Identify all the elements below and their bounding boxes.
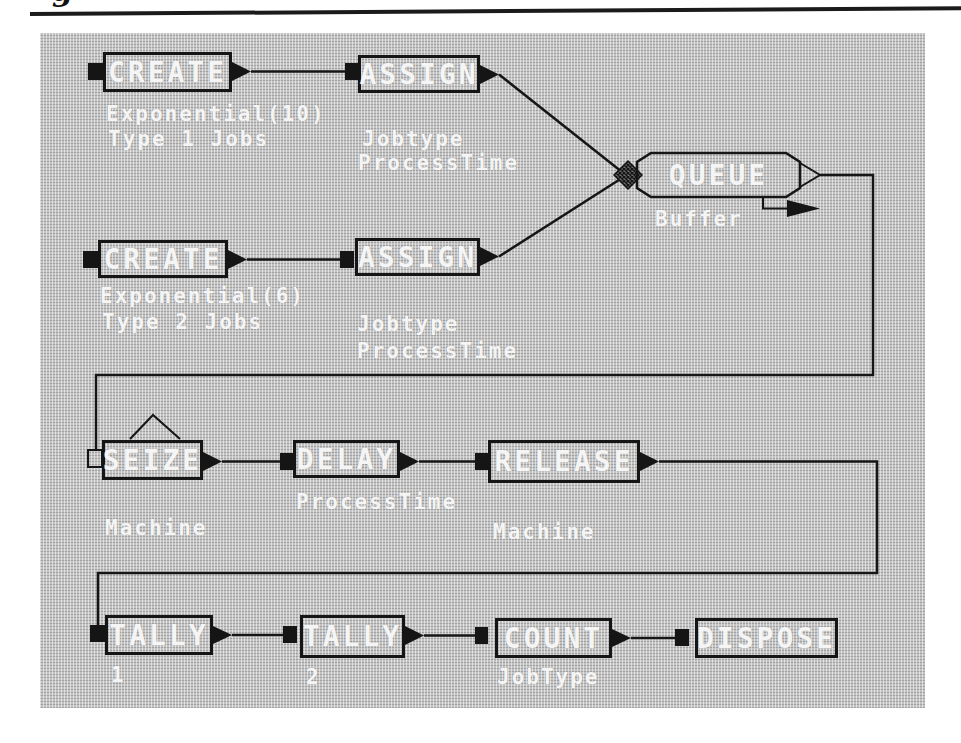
horizontal-rule — [30, 6, 961, 16]
block-create-1: CREATE — [103, 52, 232, 92]
seize-resource-peak — [130, 415, 180, 439]
block-release: RELEASE — [488, 440, 640, 483]
annotation-count-var: JobType — [497, 665, 600, 689]
block-assign-1: ASSIGN — [358, 55, 480, 93]
block-queue: QUEUE — [637, 153, 800, 197]
annotation-queue-name: Buffer — [655, 207, 743, 231]
entry-port — [83, 251, 98, 268]
block-count: COUNT — [495, 618, 612, 658]
annotation-seize-resource: Machine — [105, 516, 208, 540]
annotation-create-1-type: Type 1 Jobs — [108, 127, 269, 151]
annotation-assign-2-var2: ProcessTime — [357, 339, 518, 363]
queue-detach-arrow-icon — [787, 200, 820, 217]
arrowhead-icon — [480, 65, 499, 84]
arrowhead-icon — [480, 247, 499, 266]
entry-port — [345, 63, 359, 80]
queue-detach-hook — [763, 197, 787, 209]
arrowhead-icon — [213, 626, 232, 644]
block-assign-2: ASSIGN — [355, 238, 480, 276]
entry-port — [340, 251, 354, 268]
queue-exit-tip — [800, 163, 820, 187]
annotation-tally-2-id: 2 — [306, 665, 321, 689]
entry-port — [475, 627, 488, 644]
entry-port — [88, 63, 103, 80]
entry-port — [90, 625, 105, 642]
figure-caption-remnant: g — [48, 0, 94, 7]
annotation-create-1-dist: Exponential(10) — [106, 102, 326, 126]
caption-letter: g — [52, 0, 73, 7]
arrowhead-icon — [228, 250, 247, 269]
seize-entry-port-open — [88, 450, 102, 467]
entry-port — [283, 626, 297, 643]
arrowhead-icon — [405, 626, 424, 645]
entry-port — [280, 453, 293, 470]
block-delay: DELAY — [293, 440, 400, 478]
connector-line-diagonal — [499, 178, 622, 257]
arrowhead-icon — [203, 452, 222, 471]
entry-port — [675, 629, 689, 646]
block-seize: SEIZE — [102, 440, 203, 480]
entry-port — [475, 453, 488, 470]
annotation-assign-1-var1: Jobtype — [362, 127, 465, 151]
annotation-assign-1-var2: ProcessTime — [358, 151, 519, 175]
annotation-create-2-type: Type 2 Jobs — [102, 310, 263, 334]
arrowhead-icon — [232, 62, 251, 81]
annotation-tally-1-id: 1 — [111, 663, 126, 687]
arrowhead-icon — [612, 629, 631, 647]
diagram-canvas: CREATE ASSIGN QUEUE CREATE ASSIGN SEIZE … — [40, 33, 925, 708]
arrowhead-icon — [640, 452, 659, 471]
annotation-delay-time: ProcessTime — [296, 490, 457, 514]
block-create-2: CREATE — [98, 240, 228, 278]
annotation-assign-2-var1: Jobtype — [357, 312, 460, 336]
arrowhead-icon — [400, 452, 419, 471]
block-tally-1: TALLY — [105, 615, 213, 655]
block-tally-2: TALLY — [300, 615, 405, 658]
route-release-to-tally — [98, 462, 877, 626]
annotation-create-2-dist: Exponential(6) — [100, 284, 305, 308]
block-dispose: DISPOSE — [695, 618, 838, 658]
annotation-release-resource: Machine — [493, 520, 596, 544]
